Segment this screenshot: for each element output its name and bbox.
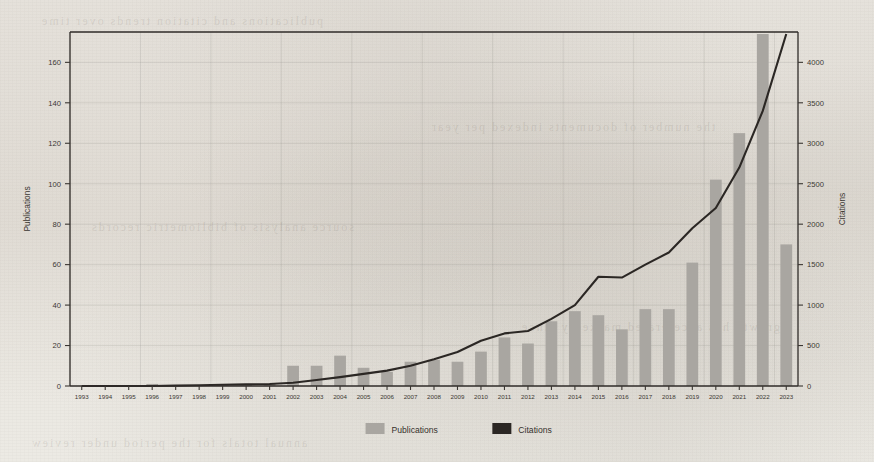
tick-label-left-140: 140 [48, 99, 61, 108]
tick-label-right-2500: 2500 [807, 180, 824, 189]
tick-label-x-2021: 2021 [732, 393, 746, 400]
tick-label-left-160: 160 [48, 58, 61, 67]
legend-label-citations: Citations [518, 425, 551, 435]
bar-2015 [593, 315, 605, 386]
bar-2016 [616, 329, 628, 386]
tick-label-x-2017: 2017 [638, 393, 652, 400]
bar-2011 [499, 337, 511, 386]
bar-2006 [381, 372, 393, 386]
tick-label-x-1998: 1998 [192, 393, 206, 400]
bar-2012 [522, 344, 534, 386]
tick-label-x-2013: 2013 [545, 393, 559, 400]
tick-label-x-1997: 1997 [169, 393, 183, 400]
bar-2005 [358, 368, 370, 386]
tick-label-x-2010: 2010 [474, 393, 488, 400]
tick-label-right-2000: 2000 [807, 220, 824, 229]
tick-label-x-2023: 2023 [779, 393, 793, 400]
tick-label-x-2004: 2004 [333, 393, 347, 400]
legend-swatch-citations [492, 423, 511, 434]
bar-2008 [428, 360, 440, 386]
tick-label-x-2000: 2000 [239, 393, 253, 400]
tick-label-left-80: 80 [53, 220, 61, 229]
tick-label-x-2003: 2003 [310, 393, 324, 400]
tick-label-right-1500: 1500 [807, 260, 824, 269]
bar-2013 [546, 321, 558, 386]
tick-label-x-2020: 2020 [709, 393, 723, 400]
tick-label-x-2005: 2005 [357, 393, 371, 400]
tick-label-x-2006: 2006 [380, 393, 394, 400]
tick-label-x-2016: 2016 [615, 393, 629, 400]
tick-label-left-20: 20 [53, 341, 61, 350]
tick-label-left-0: 0 [57, 382, 61, 391]
tick-label-x-1999: 1999 [216, 393, 230, 400]
tick-label-x-2018: 2018 [662, 393, 676, 400]
chart-figure: 020406080100120140160Publications0500100… [0, 0, 874, 462]
tick-label-x-1996: 1996 [145, 393, 159, 400]
bar-2010 [475, 352, 487, 386]
tick-label-left-100: 100 [48, 180, 61, 189]
tick-label-x-2019: 2019 [685, 393, 699, 400]
tick-label-right-0: 0 [807, 382, 811, 391]
tick-label-x-2011: 2011 [498, 393, 512, 400]
bar-2019 [686, 263, 698, 386]
tick-label-x-2014: 2014 [568, 393, 582, 400]
bar-2004 [334, 356, 346, 386]
tick-label-x-1995: 1995 [122, 393, 136, 400]
tick-label-left-60: 60 [53, 260, 61, 269]
bar-2003 [311, 366, 323, 386]
tick-label-right-4000: 4000 [807, 58, 824, 67]
tick-label-right-500: 500 [807, 341, 820, 350]
publications-citations-chart: 020406080100120140160Publications0500100… [0, 0, 874, 462]
tick-label-x-2012: 2012 [521, 393, 535, 400]
legend-swatch-publications [366, 423, 385, 434]
tick-label-right-1000: 1000 [807, 301, 824, 310]
axis-title-publications: Publications [22, 186, 32, 231]
tick-label-x-2002: 2002 [286, 393, 300, 400]
bar-2022 [757, 34, 769, 386]
tick-label-x-2009: 2009 [451, 393, 465, 400]
tick-label-x-1994: 1994 [98, 393, 112, 400]
tick-label-x-1993: 1993 [75, 393, 89, 400]
tick-label-x-2015: 2015 [592, 393, 606, 400]
bar-2023 [780, 244, 792, 386]
bar-2009 [452, 362, 464, 386]
tick-label-x-2001: 2001 [263, 393, 277, 400]
tick-label-right-3000: 3000 [807, 139, 824, 148]
legend-label-publications: Publications [392, 425, 438, 435]
axis-title-citations: Citations [837, 193, 847, 226]
tick-label-right-3500: 3500 [807, 99, 824, 108]
tick-label-left-40: 40 [53, 301, 61, 310]
bar-2014 [569, 311, 581, 386]
citations-line [82, 34, 787, 386]
tick-label-x-2022: 2022 [756, 393, 770, 400]
bar-2017 [639, 309, 651, 386]
bar-2021 [733, 133, 745, 386]
tick-label-left-120: 120 [48, 139, 61, 148]
tick-label-x-2007: 2007 [404, 393, 418, 400]
bar-2018 [663, 309, 675, 386]
tick-label-x-2008: 2008 [427, 393, 441, 400]
